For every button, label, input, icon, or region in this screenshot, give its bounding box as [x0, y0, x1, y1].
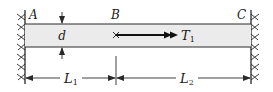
- dimension-l2-label: L2: [179, 71, 194, 87]
- dimension-lines: L1 L2: [26, 56, 250, 87]
- right-wall-hatch: [251, 14, 259, 80]
- diameter-indicator: d: [58, 12, 66, 59]
- right-fixed-support: [251, 10, 259, 84]
- point-label-b: B: [110, 8, 120, 22]
- left-wall-hatch: [17, 14, 25, 80]
- torsion-bar-diagram: d A B C T1 L1 L2: [0, 0, 273, 92]
- diameter-label: d: [58, 29, 66, 43]
- dimension-l1-label: L1: [63, 71, 78, 87]
- support-label-c: C: [237, 8, 246, 22]
- left-fixed-support: [17, 10, 25, 84]
- support-label-a: A: [28, 8, 38, 22]
